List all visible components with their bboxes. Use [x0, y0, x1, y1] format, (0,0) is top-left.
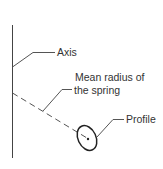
axis-leader-line [13, 53, 56, 68]
mean-radius-label-line2: the spring [74, 84, 120, 96]
profile-label: Profile [126, 113, 156, 125]
mean-radius-label-line1: Mean radius of [75, 71, 144, 83]
profile-leader-line [97, 120, 124, 138]
mean-radius-leader-line [43, 90, 72, 112]
axis-label: Axis [57, 46, 77, 58]
mean-radius-dashed-line [13, 93, 88, 138]
profile-center-dot [87, 138, 89, 140]
spring-profile-diagram: Axis Mean radius of the spring Profile [0, 0, 163, 169]
